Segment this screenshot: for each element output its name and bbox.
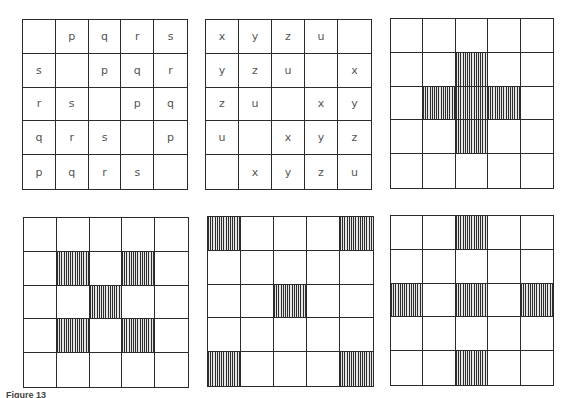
grid-cell: r (89, 155, 122, 189)
shaded-cell (423, 87, 455, 121)
grid-cell (391, 120, 423, 154)
grid-cell (241, 251, 274, 285)
grid-cell (521, 351, 553, 385)
shaded-cell (208, 217, 241, 251)
grid-cell: s (89, 121, 122, 155)
grid-cell (90, 252, 123, 286)
grid-cell (340, 318, 373, 352)
grid-cell: s (121, 155, 154, 189)
grid-cell (121, 121, 154, 155)
grid-cell (274, 352, 307, 386)
grid-cell: u (305, 20, 338, 54)
grid-cell: u (239, 88, 272, 122)
grid-cell: y (206, 54, 239, 88)
grid-cell (488, 250, 520, 284)
grid-cell: y (272, 155, 305, 189)
shaded-cell (122, 319, 155, 353)
grid-cell: z (206, 88, 239, 122)
grid-cell: q (89, 20, 122, 54)
grid-cell (241, 285, 274, 319)
grid-cell (24, 218, 57, 252)
shaded-cell (340, 352, 373, 386)
grid-cell: s (154, 20, 187, 54)
grid-cell (89, 88, 122, 122)
grid-cell (456, 250, 488, 284)
grid-cell: q (121, 54, 154, 88)
grid-cell (208, 285, 241, 319)
grid-cell (423, 154, 455, 188)
grid-cell (305, 54, 338, 88)
grid-cell (391, 250, 423, 284)
grid-cell: u (338, 155, 371, 189)
grid-cell (488, 317, 520, 351)
grid-cell (208, 251, 241, 285)
grid-cell: q (23, 121, 56, 155)
grid-cell (122, 286, 155, 320)
grid-cell (155, 218, 188, 252)
grid-cell: y (338, 88, 371, 122)
grid-cell: x (206, 20, 239, 54)
grid-cell: y (239, 20, 272, 54)
shaded-cell (488, 87, 520, 121)
grid-cell (274, 318, 307, 352)
grid-cell: q (154, 88, 187, 122)
grid-cell: p (23, 155, 56, 189)
grid-cell (241, 217, 274, 251)
grid-cell (521, 154, 553, 188)
grid-cell (488, 351, 520, 385)
grid-cell (206, 155, 239, 189)
grid-cell (307, 352, 340, 386)
shaded-cell (122, 252, 155, 286)
grid-cell (488, 53, 520, 87)
grid-cell (456, 317, 488, 351)
shaded-cell (90, 286, 123, 320)
shaded-cell (456, 351, 488, 385)
grid-cell (307, 318, 340, 352)
grid-cell: p (89, 54, 122, 88)
grid-cell (423, 317, 455, 351)
grid-cell: p (154, 121, 187, 155)
grid-cell (521, 317, 553, 351)
grid-cell: p (56, 20, 89, 54)
grid-cell (423, 351, 455, 385)
shaded-cell (391, 284, 423, 318)
grid-cell: r (23, 88, 56, 122)
grid-cell (307, 251, 340, 285)
grid-cell (338, 20, 371, 54)
grid-cell (340, 285, 373, 319)
figure-caption: Figure 13 (6, 391, 46, 398)
grid-cell (456, 154, 488, 188)
grid-cell: u (272, 54, 305, 88)
shaded-grid-plus (390, 18, 554, 189)
grid-cell: r (154, 54, 187, 88)
grid-cell (272, 88, 305, 122)
grid-cell (521, 53, 553, 87)
grid-cell (90, 218, 123, 252)
shaded-cell (57, 319, 90, 353)
grid-cell (274, 251, 307, 285)
shaded-cell (456, 120, 488, 154)
grid-cell (155, 319, 188, 353)
grid-cell: z (338, 121, 371, 155)
grid-cell (57, 286, 90, 320)
grid-cell (24, 252, 57, 286)
grid-cell (307, 217, 340, 251)
shaded-cell (274, 285, 307, 319)
grid-cell (23, 20, 56, 54)
shaded-cell (521, 284, 553, 318)
grid-cell (488, 216, 520, 250)
grid-cell (423, 120, 455, 154)
grid-cell: x (338, 54, 371, 88)
grid-cell: r (121, 20, 154, 54)
grid-cell (488, 120, 520, 154)
grid-cell (24, 286, 57, 320)
grid-cell (239, 121, 272, 155)
grid-cell (521, 19, 553, 53)
shaded-cell (340, 217, 373, 251)
grid-cell (423, 250, 455, 284)
grid-cell: p (121, 88, 154, 122)
shaded-cell (456, 53, 488, 87)
grid-cell (90, 319, 123, 353)
grid-cell (391, 154, 423, 188)
shaded-cell (456, 87, 488, 121)
